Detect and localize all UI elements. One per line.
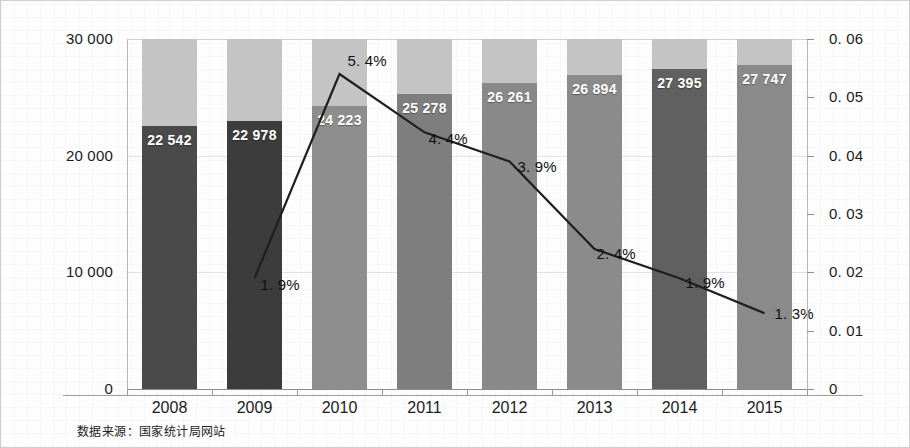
left-axis-tick-label: 20 000 xyxy=(66,147,113,164)
bar-column[interactable]: 27 747 xyxy=(737,39,793,389)
right-axis-tick-label: 0. 02 xyxy=(829,263,863,280)
bar-value-label: 24 223 xyxy=(312,112,368,128)
category-tick-mark xyxy=(722,389,723,396)
plot-area: 22 54222 97824 22325 27826 26126 89427 3… xyxy=(127,39,807,389)
bar-value-segment xyxy=(227,121,283,389)
category-tick-mark xyxy=(807,389,808,396)
bar-value-label: 27 747 xyxy=(737,71,793,87)
right-axis-tick-mark xyxy=(807,97,814,98)
bar-column[interactable]: 27 395 xyxy=(652,39,708,389)
right-axis-tick-label: 0. 03 xyxy=(829,205,863,222)
bar-value-label: 27 395 xyxy=(652,75,708,91)
bar-value-segment xyxy=(652,69,708,389)
source-footnote: 数据来源：国家统计局网站 xyxy=(77,422,226,439)
category-tick-mark xyxy=(212,389,213,396)
left-axis-tick-label: 10 000 xyxy=(66,263,113,280)
left-axis-tick-label: 30 000 xyxy=(66,30,113,47)
growth-rate-point-label: 1. 9% xyxy=(261,276,300,293)
bar-column[interactable]: 24 223 xyxy=(312,39,368,389)
category-tick-mark xyxy=(127,389,128,396)
bar-remainder-segment xyxy=(567,39,623,75)
category-label[interactable]: 2010 xyxy=(297,399,382,417)
bar-column[interactable]: 26 894 xyxy=(567,39,623,389)
right-axis-tick-label: 0. 05 xyxy=(829,88,863,105)
category-tick-mark xyxy=(382,389,383,396)
category-label[interactable]: 2011 xyxy=(382,399,467,417)
category-label[interactable]: 2008 xyxy=(127,399,212,417)
right-axis-tick-mark xyxy=(807,389,814,390)
bar-remainder-segment xyxy=(312,39,368,106)
bar-value-label: 22 542 xyxy=(142,132,198,148)
bar-column[interactable]: 22 978 xyxy=(227,39,283,389)
bar-remainder-segment xyxy=(652,39,708,69)
bar-remainder-segment xyxy=(737,39,793,65)
category-tick-mark xyxy=(467,389,468,396)
bar-value-label: 22 978 xyxy=(227,127,283,143)
bar-value-segment xyxy=(312,106,368,389)
left-axis-line xyxy=(127,39,128,389)
right-axis-tick-label: 0 xyxy=(829,380,838,397)
bar-remainder-segment xyxy=(227,39,283,121)
right-axis-tick-mark xyxy=(807,331,814,332)
right-axis-tick-mark xyxy=(807,39,814,40)
bar-value-segment xyxy=(482,83,538,389)
right-axis-tick-mark xyxy=(807,156,814,157)
category-tick-mark xyxy=(297,389,298,396)
bar-value-label: 26 894 xyxy=(567,81,623,97)
growth-rate-point-label: 4. 4% xyxy=(429,130,468,147)
growth-rate-point-label: 1. 9% xyxy=(686,274,725,291)
category-tick-mark xyxy=(552,389,553,396)
category-label[interactable]: 2014 xyxy=(637,399,722,417)
left-axis-tick-label: 0 xyxy=(104,380,113,397)
category-tick-mark xyxy=(637,389,638,396)
bar-remainder-segment xyxy=(397,39,453,94)
category-label[interactable]: 2015 xyxy=(722,399,807,417)
bar-value-label: 26 261 xyxy=(482,89,538,105)
right-axis-tick-label: 0. 06 xyxy=(829,30,863,47)
bar-column[interactable]: 22 542 xyxy=(142,39,198,389)
right-axis-tick-label: 0. 01 xyxy=(829,322,863,339)
chart-container: 22 54222 97824 22325 27826 26126 89427 3… xyxy=(0,0,910,448)
bar-column[interactable]: 26 261 xyxy=(482,39,538,389)
growth-rate-point-label: 3. 9% xyxy=(518,158,557,175)
category-label[interactable]: 2012 xyxy=(467,399,552,417)
bar-remainder-segment xyxy=(482,39,538,83)
bar-remainder-segment xyxy=(142,39,198,126)
growth-rate-point-label: 2. 4% xyxy=(597,245,636,262)
right-axis-tick-label: 0. 04 xyxy=(829,147,863,164)
bar-column[interactable]: 25 278 xyxy=(397,39,453,389)
category-label[interactable]: 2009 xyxy=(212,399,297,417)
category-label[interactable]: 2013 xyxy=(552,399,637,417)
bar-value-segment xyxy=(567,75,623,389)
bar-value-label: 25 278 xyxy=(397,100,453,116)
bar-value-segment xyxy=(142,126,198,389)
bar-value-segment xyxy=(737,65,793,389)
right-axis-tick-mark xyxy=(807,272,814,273)
right-axis-tick-mark xyxy=(807,214,814,215)
outer-baseline xyxy=(63,395,863,396)
growth-rate-point-label: 5. 4% xyxy=(348,52,387,69)
